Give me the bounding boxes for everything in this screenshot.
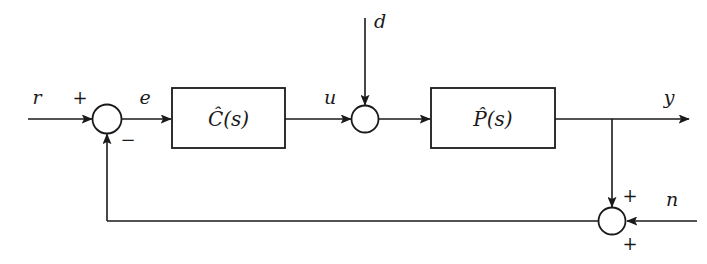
- summing-junction-disturbance: [352, 106, 379, 133]
- summing-junction-error: [93, 105, 122, 134]
- label-disturbance-signal: d: [374, 10, 386, 32]
- label-reference-signal: r: [32, 86, 43, 108]
- sign-noise-sum-plus: +: [622, 233, 637, 254]
- summing-junction-noise: [599, 208, 626, 235]
- label-output-signal: y: [663, 86, 675, 108]
- block-diagram-figure: r + − e Ĉ(s) u d P̂(s) y + + n: [0, 0, 707, 264]
- label-control-signal: u: [324, 86, 336, 108]
- label-error-signal: e: [139, 86, 150, 108]
- sign-output-sum-plus: +: [622, 185, 637, 206]
- sign-reference-plus: +: [72, 87, 87, 108]
- sign-feedback-minus: −: [120, 129, 135, 150]
- diagram-canvas: r + − e Ĉ(s) u d P̂(s) y + + n: [0, 0, 707, 264]
- label-plant-block: P̂(s): [472, 107, 512, 131]
- label-controller-block: Ĉ(s): [208, 106, 249, 131]
- label-noise-signal: n: [666, 188, 678, 210]
